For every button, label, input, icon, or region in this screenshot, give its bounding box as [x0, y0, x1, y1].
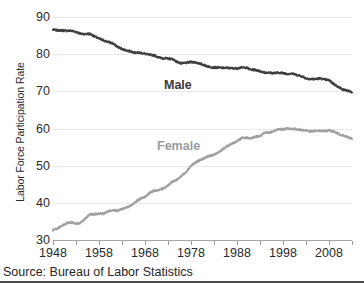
- x-axis-tick-mark: [145, 241, 146, 245]
- y-axis-tick-label: 30: [4, 234, 50, 247]
- series-line-male: [53, 29, 352, 92]
- series-lines: [53, 17, 352, 240]
- footer-divider: [0, 281, 364, 283]
- x-axis-tick-mark: [214, 241, 215, 245]
- x-axis-tick-mark: [352, 241, 353, 245]
- series-annotation-female: Female: [157, 139, 200, 153]
- series-annotation-male: Male: [164, 78, 192, 92]
- x-axis-tick-mark: [191, 241, 192, 245]
- x-axis-tick-mark: [283, 241, 284, 245]
- x-axis-tick-mark: [329, 241, 330, 245]
- x-axis-tick-mark: [53, 241, 54, 245]
- y-axis-tick-label: 80: [4, 48, 50, 61]
- series-line-female: [53, 128, 352, 231]
- x-axis-tick-mark: [306, 241, 307, 245]
- y-axis-tick-label: 50: [4, 160, 50, 173]
- source-caption: Source: Bureau of Labor Statistics: [3, 265, 193, 279]
- x-axis-tick-mark: [168, 241, 169, 245]
- x-axis-tick-label: 2008: [299, 247, 359, 260]
- y-axis-tick-label: 90: [4, 11, 50, 24]
- y-axis-tick-label: 60: [4, 123, 50, 136]
- x-axis-tick-labels: 1948195819681978198819982008: [53, 247, 352, 263]
- x-axis-tick-mark: [99, 241, 100, 245]
- x-axis-tick-mark: [76, 241, 77, 245]
- y-axis-tick-label: 70: [4, 85, 50, 98]
- x-axis-tick-mark: [122, 241, 123, 245]
- y-axis-tick-labels: 30405060708090: [0, 17, 50, 240]
- y-axis-tick-label: 40: [4, 197, 50, 210]
- plot-area: [53, 17, 352, 240]
- chart-figure: Labor Force Participation Rate 304050607…: [0, 0, 364, 286]
- x-axis-tick-mark: [237, 241, 238, 245]
- x-axis-tick-mark: [260, 241, 261, 245]
